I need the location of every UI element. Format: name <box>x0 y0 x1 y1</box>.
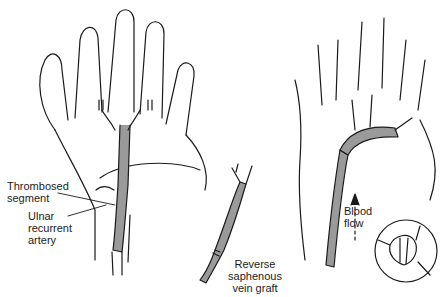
label-line: segment <box>7 192 69 204</box>
label-line: recurrent <box>28 222 72 234</box>
label-line: Blood <box>344 205 372 217</box>
label-line: Thrombosed <box>7 180 69 192</box>
label-ulnar-recurrent-artery: Ulnar recurrent artery <box>28 210 72 246</box>
label-line: flow <box>344 217 372 229</box>
label-line: Reverse <box>222 258 288 270</box>
label-line: saphenous <box>222 270 288 282</box>
medical-illustration <box>0 0 445 297</box>
label-thrombosed-segment: Thrombosed segment <box>7 180 69 204</box>
label-line: Ulnar <box>28 210 72 222</box>
right-hand-drawing <box>295 18 437 282</box>
label-blood-flow: Blood flow <box>344 205 372 229</box>
label-line: vein graft <box>222 282 288 294</box>
label-reverse-saphenous-vein-graft: Reverse saphenous vein graft <box>222 258 288 294</box>
label-line: artery <box>28 234 72 246</box>
